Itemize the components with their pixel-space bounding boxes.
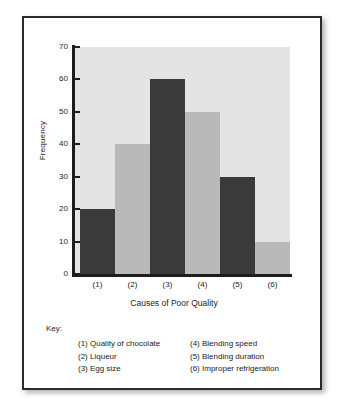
key-item: (4) Blending speed bbox=[190, 338, 279, 351]
y-tick-label: 0 bbox=[44, 269, 68, 278]
bar bbox=[115, 144, 150, 274]
bar-slot bbox=[150, 47, 185, 274]
x-axis-tick-labels: (1)(2)(3)(4)(5)(6) bbox=[80, 280, 290, 289]
bar-chart: Frequency 010203040506070 (1)(2)(3)(4)(5… bbox=[24, 18, 324, 392]
bar-slot bbox=[115, 47, 150, 274]
key-item: (3) Egg size bbox=[78, 363, 190, 376]
y-tick-label: 10 bbox=[44, 237, 68, 246]
bar-slot bbox=[185, 47, 220, 274]
chart-page: Frequency 010203040506070 (1)(2)(3)(4)(5… bbox=[0, 0, 344, 410]
key-item: (2) Liqueur bbox=[78, 351, 190, 364]
key-item: (1) Quality of chocolate bbox=[78, 338, 190, 351]
bar-slot bbox=[80, 47, 115, 274]
bar-slot bbox=[220, 47, 255, 274]
bar bbox=[80, 209, 115, 274]
bar bbox=[255, 242, 290, 274]
bar bbox=[150, 79, 185, 274]
bar-series bbox=[80, 47, 290, 274]
x-tick-label: (6) bbox=[255, 280, 290, 289]
x-axis-label: Causes of Poor Quality bbox=[24, 298, 324, 308]
chart-key: Key: (1) Quality of chocolate(2) Liqueur… bbox=[46, 324, 306, 333]
y-tick-label: 70 bbox=[44, 42, 68, 51]
x-tick-label: (1) bbox=[80, 280, 115, 289]
bar bbox=[220, 177, 255, 274]
y-tick-label: 40 bbox=[44, 139, 68, 148]
x-tick-label: (2) bbox=[115, 280, 150, 289]
key-column-left: (1) Quality of chocolate(2) Liqueur(3) E… bbox=[78, 338, 190, 376]
x-tick-label: (4) bbox=[185, 280, 220, 289]
x-axis-line bbox=[72, 274, 292, 277]
x-tick-label: (5) bbox=[220, 280, 255, 289]
key-columns: (1) Quality of chocolate(2) Liqueur(3) E… bbox=[78, 338, 304, 376]
key-column-right: (4) Blending speed(5) Blending duration(… bbox=[190, 338, 279, 376]
key-item: (6) Improper refrigeration bbox=[190, 363, 279, 376]
key-item: (5) Blending duration bbox=[190, 351, 279, 364]
key-title: Key: bbox=[46, 324, 306, 333]
y-tick-label: 30 bbox=[44, 172, 68, 181]
y-tick-label: 20 bbox=[44, 204, 68, 213]
x-tick-label: (3) bbox=[150, 280, 185, 289]
chart-card: Frequency 010203040506070 (1)(2)(3)(4)(5… bbox=[22, 16, 322, 390]
bar-slot bbox=[255, 47, 290, 274]
y-tick-label: 60 bbox=[44, 74, 68, 83]
y-tick-label: 50 bbox=[44, 107, 68, 116]
bar bbox=[185, 112, 220, 274]
